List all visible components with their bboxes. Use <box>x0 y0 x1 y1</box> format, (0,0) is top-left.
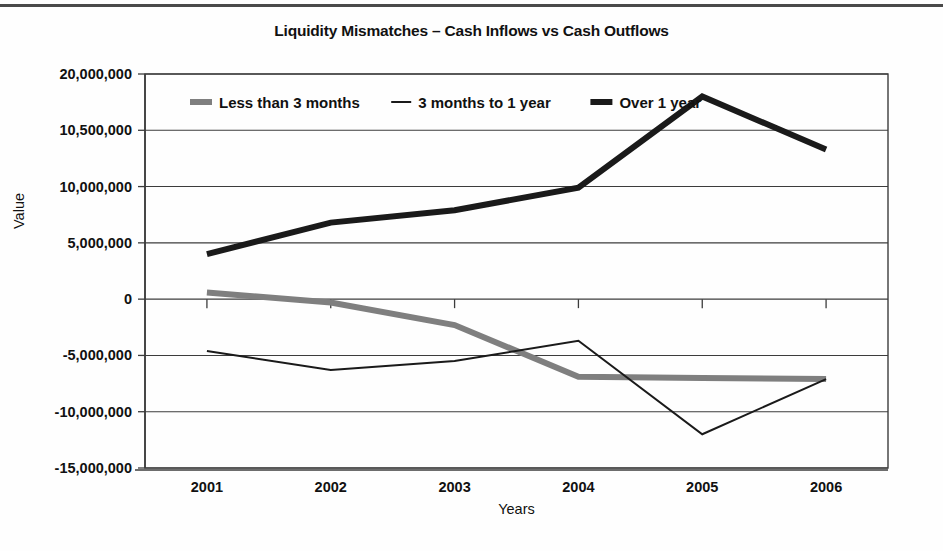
x-axis-tick-label: 2005 <box>686 479 718 495</box>
y-axis-tick-label: 10,500,000 <box>59 122 132 138</box>
legend-label-2: 3 months to 1 year <box>418 94 551 111</box>
series-line-2 <box>207 341 826 434</box>
liquidity-mismatches-line-chart: 20,000,00010,500,00010,000,0005,000,0000… <box>0 0 943 551</box>
y-axis-title: Value <box>11 193 27 229</box>
legend-label-1: Less than 3 months <box>219 94 360 111</box>
chart-page: Liquidity Mismatches – Cash Inflows vs C… <box>0 0 943 551</box>
y-axis-tick-label: 5,000,000 <box>67 235 132 251</box>
x-axis-tick-label: 2004 <box>562 479 594 495</box>
y-axis-tick-label: -5,000,000 <box>63 347 132 363</box>
legend-label-3: Over 1 year <box>619 94 701 111</box>
y-axis-tick-label: -10,000,000 <box>55 404 132 420</box>
x-axis-tick-label: 2002 <box>315 479 347 495</box>
y-axis-tick-label: -15,000,000 <box>55 460 132 476</box>
x-axis-tick-label: 2001 <box>191 479 223 495</box>
x-axis-title: Years <box>498 501 535 517</box>
series-line-3 <box>207 97 826 255</box>
x-axis-tick-label: 2006 <box>810 479 842 495</box>
x-axis-tick-label: 2003 <box>438 479 470 495</box>
y-axis-tick-label: 20,000,000 <box>59 66 132 82</box>
y-axis-tick-label: 10,000,000 <box>59 179 132 195</box>
plot-area-border <box>145 74 888 468</box>
y-axis-tick-label: 0 <box>124 291 132 307</box>
